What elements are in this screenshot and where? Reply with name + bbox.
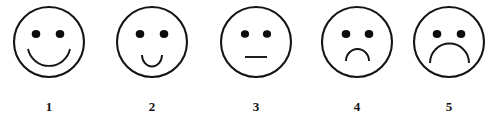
face-label-5: 5 [446, 100, 453, 113]
face-label-1: 1 [46, 100, 53, 113]
smiley-face-2-icon [115, 5, 189, 79]
face-option-1[interactable]: 1 [0, 0, 98, 124]
frowning-face-5-icon [412, 5, 486, 79]
face-option-2[interactable]: 2 [103, 0, 201, 124]
face-label-3: 3 [253, 100, 260, 113]
face-option-3[interactable]: 3 [207, 0, 305, 124]
face-option-5[interactable]: 5 [400, 0, 491, 124]
smiley-face-1-icon [12, 5, 86, 79]
neutral-face-3-icon [219, 5, 293, 79]
faces-rating-scale: 1 2 3 4 [0, 0, 491, 124]
frowning-face-4-icon [320, 5, 394, 79]
face-label-2: 2 [149, 100, 156, 113]
face-label-4: 4 [354, 100, 361, 113]
face-option-4[interactable]: 4 [308, 0, 406, 124]
